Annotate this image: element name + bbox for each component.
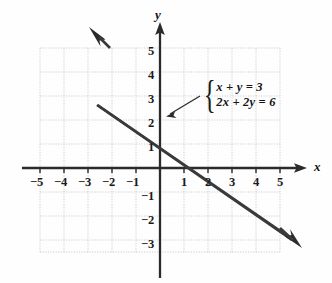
x-tick-label: −2 — [102, 176, 115, 189]
y-tick-label: −3 — [141, 238, 154, 251]
x-tick-label: −3 — [78, 176, 91, 189]
line-arrow-shaft-upper — [99, 37, 110, 48]
x-tick-label: 3 — [229, 176, 235, 189]
x-axis-label: x — [314, 160, 321, 173]
y-tick-label: −2 — [141, 214, 154, 227]
equation-line-1: x + y = 3 — [216, 80, 276, 96]
equation-line-2: 2x + 2y = 6 — [216, 95, 276, 111]
x-tick-label: −1 — [126, 176, 139, 189]
callout-pointer-line — [170, 96, 200, 114]
x-tick-label: 1 — [181, 176, 187, 189]
y-axis-label: y — [155, 8, 161, 21]
line-arrowhead-upper-left — [89, 27, 106, 47]
equation-system-callout: { x + y = 3 2x + 2y = 6 — [200, 76, 276, 114]
callout-pointer-arrowhead — [166, 112, 177, 119]
x-tick-label: −5 — [30, 176, 43, 189]
equation-lines: x + y = 3 2x + 2y = 6 — [216, 80, 276, 111]
plotted-line-group — [89, 27, 302, 248]
plotted-line-full — [98, 105, 293, 239]
y-tick-label: 4 — [148, 69, 154, 82]
callout-pointer — [166, 96, 200, 118]
y-tick-label: 2 — [148, 117, 154, 130]
y-tick-label: 1 — [148, 141, 154, 154]
x-tick-label: 4 — [253, 176, 259, 189]
y-tick-label: −1 — [141, 190, 154, 203]
y-tick-label: 3 — [148, 93, 154, 106]
coordinate-plane-svg — [0, 0, 332, 283]
left-brace-glyph: { — [204, 76, 216, 114]
graph-figure: −5 −4 −3 −2 −1 1 2 3 4 5 5 4 3 2 1 −1 −2… — [0, 0, 332, 283]
y-tick-label: 5 — [148, 45, 154, 58]
x-tick-label: 2 — [205, 176, 211, 189]
x-tick-label: 5 — [277, 176, 283, 189]
x-tick-label: −4 — [54, 176, 67, 189]
